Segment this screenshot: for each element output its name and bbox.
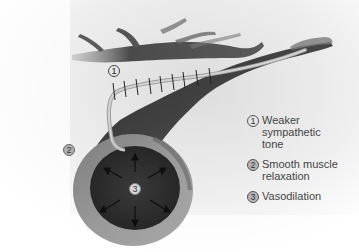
callout-2-badge: 2 (63, 144, 75, 156)
background-fade-left (0, 0, 70, 252)
legend-item-vasodilation: 3 Vasodilation (247, 190, 359, 203)
callout-1-badge: 1 (108, 65, 120, 77)
legend: 1 Weaker sympathetic tone 2 Smooth muscl… (247, 114, 359, 211)
legend-number-2: 2 (247, 159, 259, 171)
callout-3-badge: 3 (129, 183, 141, 195)
legend-label-1: Weaker sympathetic tone (262, 114, 322, 150)
legend-number-1: 1 (247, 115, 259, 127)
legend-item-weaker-sympathetic-tone: 1 Weaker sympathetic tone (247, 114, 359, 150)
vasodilation-diagram: 1 2 3 1 Weaker sympathetic tone 2 Smooth… (0, 0, 359, 252)
legend-item-smooth-muscle-relaxation: 2 Smooth muscle relaxation (247, 158, 359, 182)
legend-label-2: Smooth muscle relaxation (262, 158, 358, 182)
legend-number-3: 3 (247, 191, 259, 203)
legend-label-3: Vasodilation (262, 190, 321, 202)
